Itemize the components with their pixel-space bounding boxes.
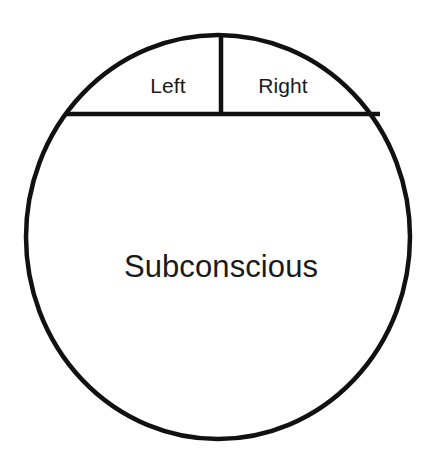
diagram-canvas — [0, 0, 440, 467]
region-label-left: Left — [150, 75, 185, 96]
mind-circle-outline — [26, 35, 410, 439]
region-label-subconscious: Subconscious — [124, 251, 318, 282]
region-label-right: Right — [258, 75, 308, 96]
mind-model-diagram: Left Right Subconscious — [0, 0, 440, 467]
